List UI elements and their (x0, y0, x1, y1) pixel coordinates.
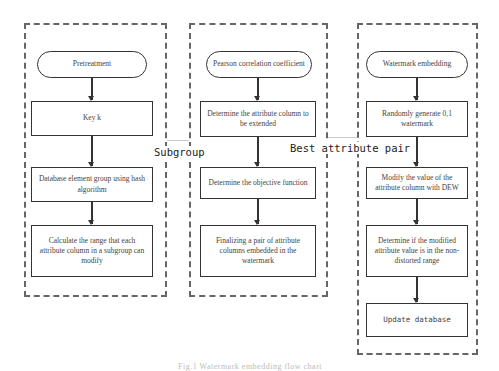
node-pretreatment: Pretreatment (37, 51, 147, 78)
figure-caption: Fig.1 Watermark embedding flow chart (150, 362, 350, 371)
node-label: Determine the objective function (209, 178, 308, 188)
node-label: Determine the attribute column to be ext… (207, 109, 309, 129)
node-label: Determine if the modified attribute valu… (373, 236, 461, 266)
node-finalize-pair: Finalizing a pair of attribute columns e… (200, 225, 316, 277)
arrow-down (257, 78, 259, 100)
arrow-down (416, 137, 418, 166)
node-modify-dew: Modify the value of the attribute column… (366, 167, 468, 199)
node-label: Update database (383, 315, 451, 325)
arrow-down (416, 277, 418, 302)
arrow-down (257, 137, 259, 166)
node-label: Pearson correlation coefficient (213, 59, 305, 69)
node-label: Calculate the range that each attribute … (38, 236, 146, 266)
link-line-subgroup (167, 140, 189, 141)
node-label: Watermark embedding (383, 59, 451, 69)
node-check-range: Determine if the modified attribute valu… (366, 225, 468, 277)
node-determine-column: Determine the attribute column to be ext… (200, 101, 316, 137)
link-label-subgroup: Subgroup (154, 146, 205, 158)
node-label: Modify the value of the attribute column… (373, 173, 461, 193)
node-key-k: Key k (31, 101, 153, 136)
arrow-down (416, 199, 418, 224)
node-label: Pretreatment (73, 59, 111, 69)
node-objective-function: Determine the objective function (200, 167, 316, 199)
node-pearson: Pearson correlation coefficient (206, 51, 312, 78)
node-update-database: Update database (366, 303, 468, 337)
arrow-down (91, 202, 93, 224)
arrow-down (416, 78, 418, 100)
node-label: Randomly generate 0,1 watermark (373, 109, 461, 129)
node-calc-range: Calculate the range that each attribute … (31, 225, 153, 277)
node-generate-watermark: Randomly generate 0,1 watermark (366, 101, 468, 137)
node-hash-grouping: Database element group using hash algori… (31, 167, 153, 202)
node-label: Key k (83, 113, 101, 123)
arrow-down (91, 136, 93, 166)
node-label: Database element group using hash algori… (38, 174, 146, 194)
link-label-best-pair: Best attribute pair (290, 142, 410, 154)
arrow-down (91, 78, 93, 100)
node-label: Finalizing a pair of attribute columns e… (207, 236, 309, 266)
link-line-best-pair (328, 137, 357, 138)
arrow-down (257, 199, 259, 224)
node-watermark-embedding: Watermark embedding (366, 51, 468, 78)
